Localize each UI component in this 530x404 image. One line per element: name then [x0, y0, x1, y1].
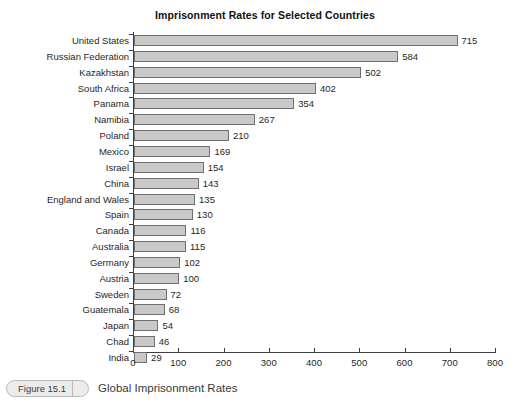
bar-value-label: 102 [180, 257, 200, 269]
bar-value-label: 100 [179, 273, 199, 285]
chart-plot-area: United States715Russian Federation584Kaz… [0, 0, 530, 404]
bar-value-label: 502 [361, 67, 381, 79]
bar-value-label: 46 [155, 336, 170, 348]
bar-value-label: 115 [186, 241, 205, 253]
x-axis-tick [450, 348, 451, 353]
bar-row: Germany102 [0, 256, 530, 272]
x-axis-tick-label: 0 [113, 357, 153, 368]
bar-row: Austria100 [0, 272, 530, 288]
caption-text: Global Imprisonment Rates [98, 382, 237, 394]
bar-row: Panama354 [0, 97, 530, 113]
x-axis-tick [495, 348, 496, 353]
bar-value-label: 267 [255, 114, 275, 126]
bar-value-label: 116 [186, 225, 205, 237]
bar-value-label: 130 [193, 209, 213, 221]
category-label: Australia [0, 241, 134, 253]
bar-value-label: 135 [195, 194, 215, 206]
category-label: England and Wales [0, 194, 134, 206]
x-axis-tick [133, 348, 134, 353]
category-label: Spain [0, 209, 134, 221]
x-axis-tick [314, 348, 315, 353]
badge-divider [72, 381, 73, 396]
x-axis-tick-label: 800 [475, 357, 515, 368]
category-label: Germany [0, 257, 134, 269]
bar-row: South Africa402 [0, 82, 530, 98]
bar-value-label: 402 [316, 83, 336, 95]
bar [134, 225, 186, 236]
x-axis-tick-label: 700 [430, 357, 470, 368]
bar [134, 67, 361, 78]
category-label: Guatemala [0, 304, 134, 316]
bar-value-label: 169 [210, 146, 230, 158]
bar [134, 114, 255, 125]
bar [134, 162, 204, 173]
category-label: United States [0, 35, 134, 47]
bar-row: Sweden72 [0, 288, 530, 304]
category-label: China [0, 178, 134, 190]
x-axis-tick-label: 100 [158, 357, 198, 368]
bar [134, 320, 158, 331]
category-label: Canada [0, 225, 134, 237]
category-label: Poland [0, 130, 134, 142]
category-label: Sweden [0, 289, 134, 301]
figure-caption: Figure 15.1 Global Imprisonment Rates [6, 378, 237, 398]
bar-row: Mexico169 [0, 145, 530, 161]
bar-row: United States715 [0, 34, 530, 50]
bar [134, 241, 186, 252]
bar [134, 83, 316, 94]
bar-row: Spain130 [0, 208, 530, 224]
bar [134, 273, 179, 284]
bar-value-label: 143 [199, 178, 219, 190]
bar-row: Kazakhstan502 [0, 66, 530, 82]
bar [134, 130, 229, 141]
category-label: Kazakhstan [0, 67, 134, 79]
bar-value-label: 210 [229, 130, 249, 142]
bar-value-label: 72 [167, 289, 182, 301]
bar-row: Poland210 [0, 129, 530, 145]
x-axis-tick [224, 348, 225, 353]
bar [134, 289, 167, 300]
bar [134, 304, 165, 315]
bar [134, 209, 193, 220]
category-label: Japan [0, 320, 134, 332]
bar-row: Japan54 [0, 319, 530, 335]
x-axis-tick-label: 200 [204, 357, 244, 368]
bar [134, 98, 294, 109]
category-label: Mexico [0, 146, 134, 158]
bar-value-label: 354 [294, 98, 314, 110]
bar-row: China143 [0, 177, 530, 193]
x-axis-tick [405, 348, 406, 353]
category-label: Panama [0, 98, 134, 110]
bar [134, 35, 458, 46]
x-axis-tick-label: 600 [385, 357, 425, 368]
bar-value-label: 68 [165, 304, 180, 316]
category-label: Austria [0, 273, 134, 285]
x-axis-tick [269, 348, 270, 353]
bar [134, 336, 155, 347]
bar-row: Namibia267 [0, 113, 530, 129]
bar-value-label: 154 [204, 162, 224, 174]
x-axis-tick-label: 400 [294, 357, 334, 368]
bar [134, 51, 398, 62]
bar-row: Guatemala68 [0, 303, 530, 319]
bar [134, 194, 195, 205]
category-label: Chad [0, 336, 134, 348]
category-label: Israel [0, 162, 134, 174]
bar [134, 178, 199, 189]
bar-value-label: 584 [398, 51, 418, 63]
bar [134, 257, 180, 268]
x-axis-tick-label: 300 [249, 357, 289, 368]
bar-row: Israel154 [0, 161, 530, 177]
bar-value-label: 54 [158, 320, 173, 332]
bar-row: Russian Federation584 [0, 50, 530, 66]
x-axis-tick [359, 348, 360, 353]
category-label: Namibia [0, 114, 134, 126]
bar-row: Canada116 [0, 224, 530, 240]
figure-number-badge: Figure 15.1 [6, 380, 89, 397]
bar-value-label: 715 [458, 35, 478, 47]
x-axis-tick-label: 500 [339, 357, 379, 368]
bar [134, 146, 210, 157]
bar-row: England and Wales135 [0, 193, 530, 209]
figure-number-label: Figure 15.1 [18, 383, 66, 394]
x-axis-tick [178, 348, 179, 353]
